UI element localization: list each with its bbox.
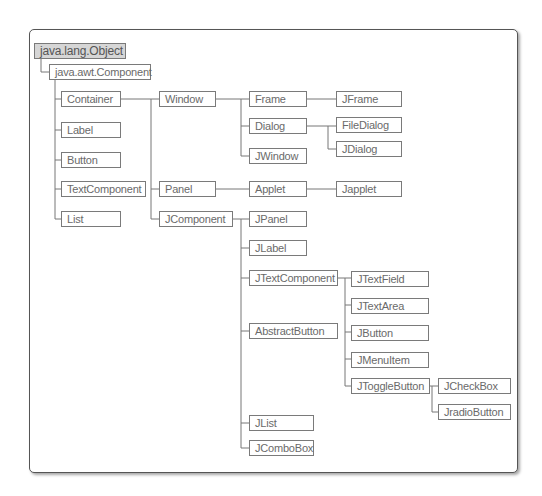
node-filedialog: FileDialog — [336, 117, 402, 133]
node-frame: Frame — [249, 91, 307, 107]
node-jlist: JList — [249, 415, 314, 431]
node-jbutton: JButton — [351, 325, 429, 341]
node-panel: Panel — [159, 181, 216, 197]
node-button: Button — [61, 152, 121, 168]
node-jframe: JFrame — [336, 91, 402, 107]
node-jdialog: JDialog — [336, 141, 402, 157]
node-java-awt-component: java.awt.Component — [49, 64, 151, 80]
node-dialog: Dialog — [249, 118, 307, 134]
node-jcomponent: JComponent — [159, 211, 233, 227]
node-jtogglebutton: JToggleButton — [351, 378, 430, 394]
node-java-lang-object: java.lang.Object — [34, 43, 126, 59]
node-label: Label — [61, 122, 121, 138]
node-abstractbutton: AbstractButton — [249, 323, 338, 339]
node-window: Window — [159, 91, 216, 107]
node-jradiobutton: JradioButton — [438, 404, 511, 420]
node-jtextcomponent: JTextComponent — [249, 270, 338, 286]
node-jwindow: JWindow — [249, 148, 307, 164]
node-jtextfield: JTextField — [351, 271, 429, 287]
node-container: Container — [61, 91, 121, 107]
node-jtextarea: JTextArea — [351, 298, 429, 314]
node-applet: Applet — [249, 181, 307, 197]
node-jcheckbox: JCheckBox — [438, 378, 511, 394]
node-jmenuitem: JMenuItem — [351, 352, 429, 368]
node-jcombobox: JComboBox — [249, 440, 314, 456]
node-jlabel: JLabel — [249, 240, 307, 256]
node-japplet: Japplet — [336, 181, 402, 197]
node-textcomponent: TextComponent — [61, 181, 146, 197]
node-list: List — [61, 211, 121, 227]
node-jpanel: JPanel — [249, 211, 307, 227]
